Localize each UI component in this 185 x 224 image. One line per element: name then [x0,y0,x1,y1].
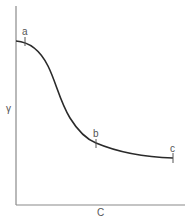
point-b-label: b [93,128,99,139]
y-axis-label: γ [6,103,11,114]
point-c-label: c [170,143,175,154]
sigmoid-curve [16,41,173,158]
diagram-canvas: a b c γ C [0,0,185,224]
x-axis-label: C [97,207,104,218]
point-a-label: a [22,26,28,37]
